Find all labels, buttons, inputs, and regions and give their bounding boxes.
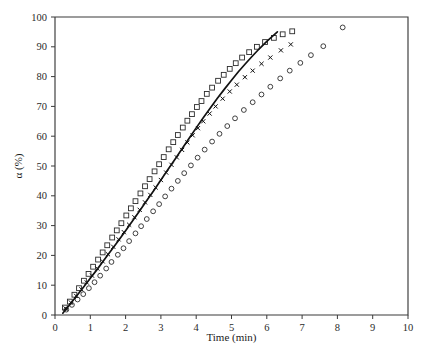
y-tick-label: 40 — [37, 190, 48, 201]
y-tick-label: 90 — [37, 41, 48, 52]
x-tick-label: 10 — [403, 322, 414, 333]
y-tick-label: 50 — [37, 161, 48, 172]
x-axis-title: Time (min) — [206, 331, 256, 344]
y-tick-label: 60 — [37, 131, 48, 142]
x-tick-label: 8 — [335, 322, 340, 333]
x-tick-label: 3 — [158, 322, 163, 333]
alpha-vs-time-scatter-chart: 012345678910 0102030405060708090100 Time… — [0, 0, 434, 352]
x-tick-label: 7 — [299, 322, 304, 333]
y-tick-label: 20 — [37, 250, 48, 261]
y-tick-label: 10 — [37, 280, 48, 291]
x-tick-label: 4 — [194, 322, 200, 333]
chart-background — [0, 0, 434, 352]
x-tick-label: 6 — [264, 322, 269, 333]
x-tick-label: 1 — [88, 322, 93, 333]
y-tick-label: 80 — [37, 71, 48, 82]
x-tick-label: 9 — [370, 322, 375, 333]
figure-container: 012345678910 0102030405060708090100 Time… — [0, 0, 434, 352]
y-tick-label: 70 — [37, 101, 48, 112]
x-tick-label: 0 — [52, 322, 57, 333]
x-tick-label: 2 — [123, 322, 128, 333]
y-tick-label: 30 — [37, 220, 48, 231]
y-tick-label: 0 — [42, 310, 47, 321]
y-tick-label: 100 — [31, 12, 47, 23]
y-axis-title: α (%) — [12, 153, 25, 178]
